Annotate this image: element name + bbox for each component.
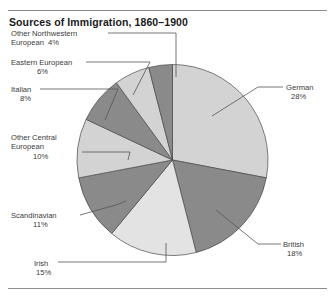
slice-percent: 6% <box>11 67 72 76</box>
immigration-pie-chart-figure: Sources of Immigration, 1860–1900 Other … <box>0 0 335 300</box>
slice-label-scandinavian: Scandinavian 11% <box>11 211 57 230</box>
slice-label-eastern-european: Eastern European 6% <box>11 58 72 77</box>
pie-slice-group <box>77 65 268 256</box>
slice-label-other-northwestern-european: Other Northwestern European4% <box>11 29 77 48</box>
slice-label-other-central-european: Other Central European 10% <box>11 133 57 161</box>
slice-percent: 4% <box>44 38 59 47</box>
slice-percent: 8% <box>11 94 31 103</box>
slice-label-irish: Irish 15% <box>34 259 51 278</box>
slice-label-line2: European <box>11 142 44 151</box>
slice-label-line1: Other Northwestern <box>11 29 77 38</box>
slice-label-line1: German <box>286 83 313 92</box>
slice-percent: 28% <box>286 92 313 101</box>
slice-label-line2: European <box>11 38 44 47</box>
slice-percent: 10% <box>11 152 57 161</box>
slice-label-german: German 28% <box>286 83 313 102</box>
slice-label-line1: Italian <box>11 85 31 94</box>
slice-label-line1: Eastern European <box>11 58 72 67</box>
slice-percent: 15% <box>34 268 51 277</box>
slice-label-line1: Scandinavian <box>11 211 57 220</box>
slice-percent: 18% <box>283 249 304 258</box>
slice-percent: 11% <box>11 220 57 229</box>
slice-label-line1: British <box>283 240 304 249</box>
slice-label-italian: Italian 8% <box>11 85 31 104</box>
slice-label-line1: Other Central <box>11 133 57 142</box>
slice-label-british: British 18% <box>283 240 304 259</box>
pie-slice-german <box>173 65 269 178</box>
slice-label-line1: Irish <box>34 259 48 268</box>
